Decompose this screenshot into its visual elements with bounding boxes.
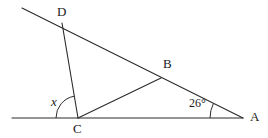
point-label-d: D [57, 5, 66, 18]
angle-arc-at-A [210, 104, 213, 118]
geometry-canvas [0, 0, 268, 138]
point-label-a: A [250, 110, 259, 123]
point-label-c: C [73, 122, 82, 135]
angle-label-26-degrees: 26° [189, 97, 206, 109]
geometry-figure: D B A C x 26° [0, 0, 268, 138]
angle-label-x: x [51, 95, 57, 108]
angle-arc-at-C [56, 96, 74, 118]
line-segment-CB [78, 78, 161, 118]
point-label-b: B [163, 57, 172, 70]
line-segment-DC [62, 23, 78, 118]
